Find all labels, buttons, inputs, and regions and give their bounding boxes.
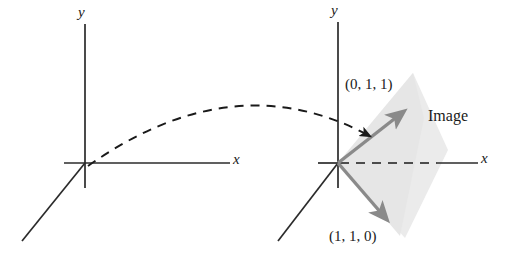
left-z-axis (22, 163, 85, 241)
left-axes-group (22, 24, 230, 241)
vector-label-1-1-0: (1, 1, 0) (329, 228, 377, 245)
right-x-axis-label: x (481, 150, 488, 167)
left-x-axis-label: x (233, 151, 240, 168)
image-region-label: Image (428, 107, 468, 125)
vector-label-0-1-1: (0, 1, 1) (345, 76, 393, 93)
transformation-arrow-group (88, 106, 366, 166)
transformation-dashed-curve (88, 106, 366, 166)
left-y-axis-label: y (78, 4, 85, 21)
right-y-axis-label: y (331, 2, 338, 19)
linear-map-image-figure: y x y x (0, 1, 1) (1, 1, 0) Image (0, 0, 510, 259)
image-plane-shaded-region (338, 73, 448, 238)
figure-canvas (0, 0, 510, 259)
